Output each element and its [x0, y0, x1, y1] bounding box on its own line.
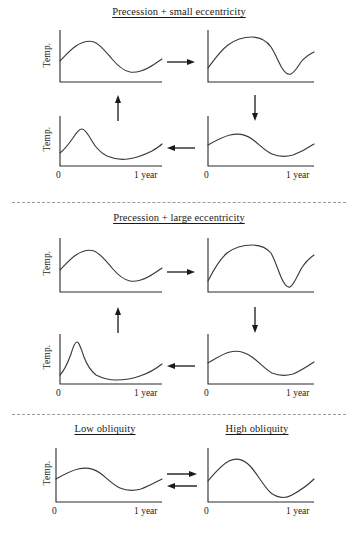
section-title-low-obliquity: Low obliquity	[46, 423, 164, 434]
panel-p2-top-right	[198, 236, 316, 298]
axes	[60, 30, 162, 82]
plot-p1-top-left	[46, 28, 164, 88]
plot-p2-bottom-right	[198, 332, 316, 390]
y-axis-label: Temp.	[42, 337, 52, 377]
x-tick-start: 0	[204, 506, 209, 516]
temperature-curve	[60, 342, 162, 380]
plot-p1-bottom-left	[46, 114, 164, 172]
y-axis-label: Temp.	[42, 453, 52, 493]
plot-p3-right	[198, 446, 316, 508]
panel-p3-right: 0 1 year	[198, 446, 316, 508]
temperature-curve	[208, 245, 314, 287]
temperature-curve	[60, 41, 162, 72]
temperature-curve	[208, 459, 314, 497]
section-divider-2	[12, 414, 346, 415]
panel-p1-bottom-left: Temp. 0 1 year	[46, 114, 164, 172]
temperature-curve	[60, 250, 162, 281]
section-obliquity: Low obliquity High obliquity Temp. 0 1 y…	[0, 420, 358, 541]
arrow-left-bottom-section1	[166, 140, 196, 158]
temperature-curve	[56, 468, 162, 490]
x-tick-end: 1 year	[286, 170, 309, 180]
panel-p1-top-right	[198, 28, 316, 88]
section-divider-1	[12, 202, 346, 203]
section-title-high-obliquity: High obliquity	[198, 423, 316, 434]
axes	[60, 334, 162, 384]
axes	[208, 116, 314, 166]
x-tick-end: 1 year	[134, 388, 157, 398]
panel-p1-bottom-right: 0 1 year	[198, 114, 316, 172]
section-precession-small-eccentricity: Precession + small eccentricity Temp.	[0, 0, 358, 200]
axes	[208, 448, 314, 502]
x-tick-end: 1 year	[134, 170, 157, 180]
y-axis-label: Temp.	[42, 243, 52, 283]
temperature-curve	[208, 37, 314, 74]
x-tick-end: 1 year	[134, 506, 157, 516]
plot-p2-top-right	[198, 236, 316, 298]
arrow-right-top-section1	[166, 54, 196, 72]
section-title-precession-large: Precession + large eccentricity	[0, 212, 358, 223]
plot-p2-top-left	[46, 236, 164, 298]
x-tick-end: 1 year	[286, 506, 309, 516]
section-precession-large-eccentricity: Precession + large eccentricity Temp.	[0, 208, 358, 413]
x-tick-start: 0	[204, 388, 209, 398]
axes	[208, 30, 314, 82]
arrow-right-top-section2	[166, 264, 196, 282]
panel-p2-bottom-left: Temp. 0 1 year	[46, 332, 164, 390]
plot-p2-bottom-left	[46, 332, 164, 390]
temperature-curve	[208, 134, 314, 156]
plot-p1-top-right	[198, 28, 316, 88]
x-tick-start: 0	[56, 170, 61, 180]
temperature-curve	[208, 351, 314, 375]
x-tick-start: 0	[56, 388, 61, 398]
x-tick-start: 0	[52, 506, 57, 516]
y-axis-label: Temp.	[42, 35, 52, 75]
orbital-forcing-diagram: Precession + small eccentricity Temp.	[0, 0, 358, 541]
y-axis-label: Temp.	[42, 119, 52, 159]
arrow-left-obliquity	[166, 478, 198, 496]
arrow-left-bottom-section2	[166, 358, 196, 376]
panel-p3-left: Temp. 0 1 year	[46, 446, 164, 508]
temperature-curve	[60, 129, 162, 159]
section-title-precession-small: Precession + small eccentricity	[0, 6, 358, 17]
panel-p2-bottom-right: 0 1 year	[198, 332, 316, 390]
axes	[60, 116, 162, 166]
x-tick-start: 0	[204, 170, 209, 180]
axes	[60, 238, 162, 292]
axes	[56, 448, 162, 502]
axes	[208, 334, 314, 384]
panel-p1-top-left: Temp.	[46, 28, 164, 88]
plot-p3-left	[46, 446, 164, 508]
x-tick-end: 1 year	[286, 388, 309, 398]
plot-p1-bottom-right	[198, 114, 316, 172]
panel-p2-top-left: Temp.	[46, 236, 164, 298]
